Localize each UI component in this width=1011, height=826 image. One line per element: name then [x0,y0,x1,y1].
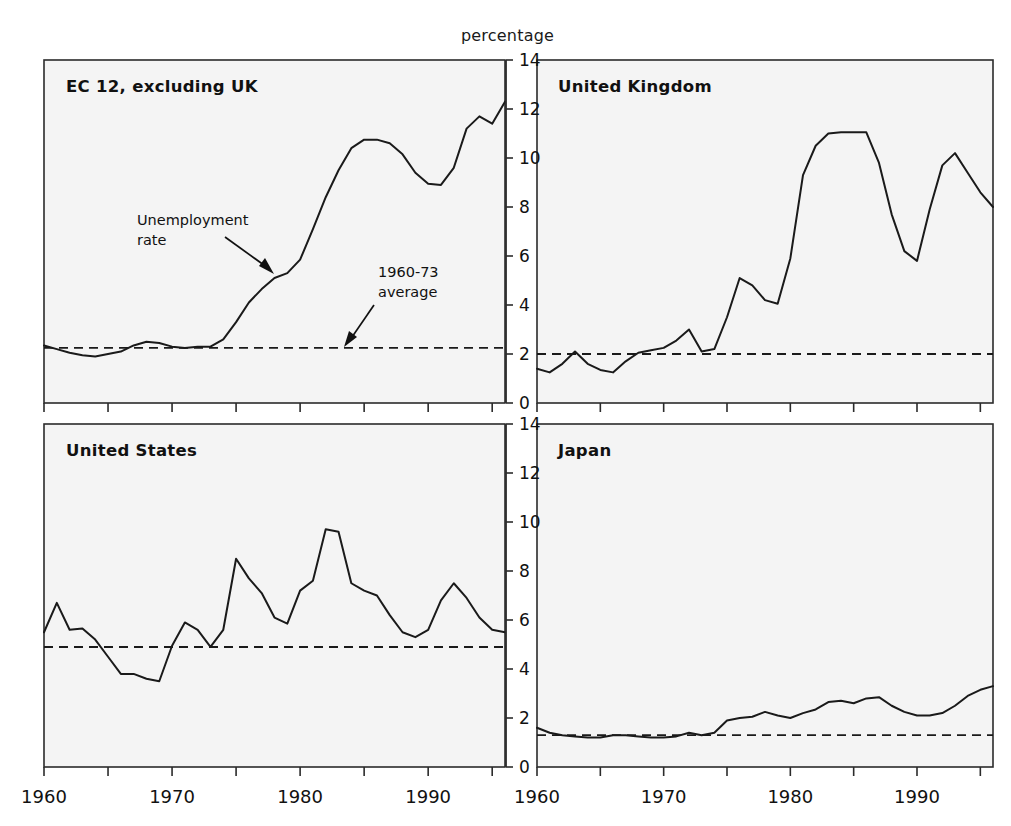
panel-japan: Japan [537,424,993,767]
panel-uk: United Kingdom [537,60,993,403]
y-tick-label: 14 [519,414,541,434]
annotation-average-line2: average [378,284,437,300]
x-axis-bottom-right-labels: 1960197019801990 [514,786,940,807]
x-tick-label: 1960 [21,786,67,807]
unit-label: percentage [0,26,1011,45]
panel-japan-title: Japan [557,441,611,460]
x-tick-label: 1990 [405,786,451,807]
panel-ec12: EC 12, excluding UK [44,60,505,403]
y-tick-label: 8 [519,561,530,581]
y-tick-label: 0 [519,757,530,777]
y-tick-label: 4 [519,295,530,315]
y-tick-label: 12 [519,463,541,483]
x-axis-bottom-left: 1960197019801990 [21,767,492,807]
panel-us: United States [44,424,505,767]
y-tick-label: 4 [519,659,530,679]
y-tick-label: 10 [519,148,541,168]
x-tick-label: 1970 [149,786,195,807]
y-tick-label: 6 [519,246,530,266]
y-axis-top: 02468101214 [506,50,541,413]
x-axis-top-left [44,403,492,412]
panel-ec12-background [44,60,505,403]
annotation-unemployment-rate-line2: rate [137,232,167,248]
y-axis-bottom: 02468101214 [506,414,541,777]
x-tick-label: 1970 [641,786,687,807]
chart-canvas: EC 12, excluding UK United Kingdom Unite… [0,0,1011,826]
y-tick-label: 2 [519,708,530,728]
x-axis-top-right [537,403,980,412]
x-axis-bottom-left-ticks [44,767,492,776]
unit-label-text: percentage [461,26,554,45]
x-tick-label: 1980 [767,786,813,807]
x-axis-bottom-right: 1960197019801990 [514,767,980,807]
y-axis-top-ticks: 02468101214 [506,50,541,413]
unemployment-rate-figure: percentage EC 12, excluding UK United Ki… [0,0,1011,826]
x-tick-label: 1990 [894,786,940,807]
panel-uk-title: United Kingdom [558,77,712,96]
y-tick-label: 14 [519,50,541,70]
x-tick-label: 1960 [514,786,560,807]
y-tick-label: 10 [519,512,541,532]
x-tick-label: 1980 [277,786,323,807]
x-axis-bottom-left-labels: 1960197019801990 [21,786,451,807]
panel-us-title: United States [66,441,197,460]
y-tick-label: 6 [519,610,530,630]
annotation-unemployment-rate-line1: Unemployment [137,212,249,228]
y-axis-bottom-ticks: 02468101214 [506,414,541,777]
annotation-average-line1: 1960-73 [378,264,439,280]
y-tick-label: 0 [519,393,530,413]
x-axis-top-right-ticks [537,403,980,412]
y-tick-label: 2 [519,344,530,364]
panel-us-background [44,424,505,767]
x-axis-bottom-right-ticks [537,767,980,776]
y-tick-label: 12 [519,99,541,119]
panel-ec12-title: EC 12, excluding UK [66,77,259,96]
y-tick-label: 8 [519,197,530,217]
x-axis-top-left-ticks [44,403,492,412]
